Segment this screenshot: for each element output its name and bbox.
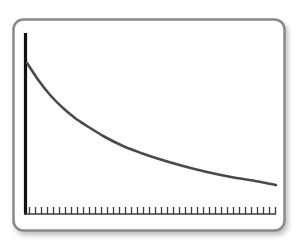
plot-canvas xyxy=(0,0,301,244)
rounded-panel xyxy=(14,20,285,231)
figure-root xyxy=(0,0,301,244)
